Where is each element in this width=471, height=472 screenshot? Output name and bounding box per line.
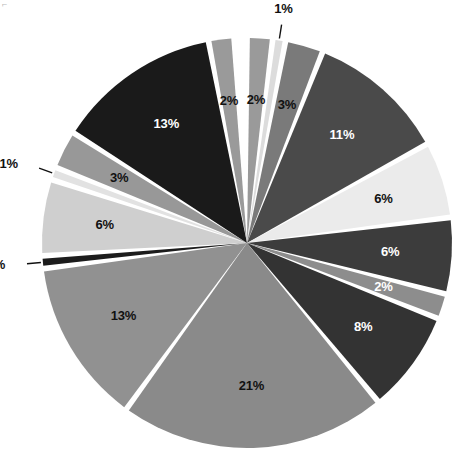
pie-slice-label: 13%: [154, 116, 180, 131]
pie-slice-label: 1%: [274, 1, 293, 16]
label-leader-line: [39, 168, 52, 173]
pie-slice-label: 2%: [220, 93, 239, 108]
pie-slice-label: 21%: [239, 378, 265, 393]
label-leader-line: [279, 25, 281, 39]
pie-slice-label: 6%: [374, 191, 393, 206]
pie-slice-label: 6%: [95, 217, 114, 232]
pie-slice-label: 3%: [110, 170, 129, 185]
pie-slice-label: 8%: [354, 319, 373, 334]
pie-slice-label: 1%: [0, 156, 18, 171]
pie-slice-label: 6%: [381, 244, 400, 259]
pie-slice-label: 1%: [0, 257, 6, 272]
pie-chart-canvas: 2%1%3%11%6%6%2%8%21%13%1%6%1%3%13%2%: [0, 0, 471, 472]
pie-slice-label: 2%: [247, 92, 266, 107]
pie-slice-label: 11%: [330, 127, 355, 142]
pie-chart-figure: ⌐ 2%1%3%11%6%6%2%8%21%13%1%6%1%3%13%2%: [0, 0, 471, 472]
pie-slice-label: 2%: [374, 279, 393, 294]
pie-slice-label: 13%: [111, 308, 137, 323]
label-leader-line: [27, 263, 41, 264]
pie-slice-label: 3%: [278, 97, 297, 112]
